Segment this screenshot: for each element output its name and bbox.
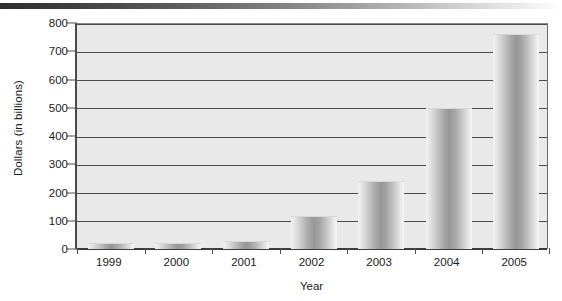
top-divider-rule [0,3,562,9]
y-axis-tick-label: 200 [28,187,68,199]
bar-2005 [493,34,539,249]
x-axis-tick-mark [145,248,146,254]
y-axis-tick-label: 0 [28,243,68,255]
x-axis-tick-mark [549,248,550,254]
y-axis-tick-mark [66,51,77,52]
y-axis-tick-label: 500 [28,102,68,114]
y-axis-tick-mark [66,107,77,108]
x-axis-tick-mark [347,248,348,254]
plot-area [75,23,548,249]
x-axis-tick-label-2000: 2000 [146,256,206,268]
y-axis-tick-label: 300 [28,158,68,170]
x-axis-tick-mark [482,248,483,254]
y-axis-tick-mark [66,136,77,137]
bar-1999 [88,243,134,249]
y-axis-tick-label: 600 [28,74,68,86]
chart-page: Dollars (in billions) 010020030040050060… [0,0,562,301]
x-axis-tick-mark [415,248,416,254]
y-axis-tick-label: 800 [28,17,68,29]
x-axis-tick-label-2001: 2001 [214,256,274,268]
y-axis-tick-mark [66,249,77,250]
bar-2002 [291,216,337,249]
y-axis-tick-label: 700 [28,45,68,57]
y-axis-tick-mark [66,220,77,221]
bar-2003 [358,181,404,249]
bar-2004 [426,108,472,249]
x-axis-tick-mark [77,248,78,254]
x-axis-tick-label-2003: 2003 [349,256,409,268]
y-axis-tick-mark [66,23,77,24]
x-axis-tick-label-2005: 2005 [484,256,544,268]
bar-2001 [223,241,269,249]
gridline-700 [77,52,547,53]
gridline-300 [77,165,547,166]
gridline-200 [77,193,547,194]
y-axis-tick-mark [66,79,77,80]
y-axis-title: Dollars (in billions) [12,48,24,208]
y-axis-tick-mark [66,192,77,193]
x-axis-tick-mark [212,248,213,254]
gridline-600 [77,80,547,81]
bar-chart-figure: Dollars (in billions) 010020030040050060… [0,12,562,301]
y-axis-tick-mark [66,164,77,165]
gridline-400 [77,137,547,138]
bar-2000 [155,243,201,249]
y-axis-tick-label: 400 [28,130,68,142]
x-axis-title: Year [75,280,548,292]
x-axis-tick-label-2004: 2004 [417,256,477,268]
gridline-800 [77,24,547,25]
x-axis-tick-label-2002: 2002 [282,256,342,268]
gridline-500 [77,108,547,109]
x-axis-tick-mark [280,248,281,254]
x-axis-tick-label-1999: 1999 [79,256,139,268]
y-axis-tick-label: 100 [28,215,68,227]
scan-artifact-text: ........................................… [0,297,562,301]
